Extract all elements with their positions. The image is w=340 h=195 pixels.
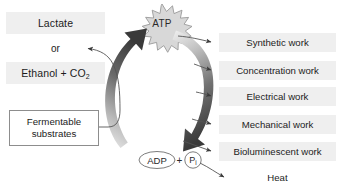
thick-arrow-synthesis <box>105 29 147 149</box>
plus-sign: + <box>175 153 184 167</box>
atp-label: ATP <box>143 16 181 30</box>
output-mechanical-work: Mechanical work <box>219 115 336 134</box>
lactate-box: Lactate <box>6 12 105 34</box>
atp-cycle-diagram: Lactate or Ethanol + CO2 Fermentable sub… <box>0 0 340 195</box>
lactate-label: Lactate <box>38 17 73 29</box>
fermentable-line1: Fermentable <box>27 116 81 128</box>
output-heat: Heat <box>219 168 336 187</box>
output-electrical-work: Electrical work <box>219 87 336 106</box>
or-text: or <box>51 43 60 54</box>
or-label: or <box>6 40 105 56</box>
ethanol-label: Ethanol + CO2 <box>21 67 90 79</box>
ethanol-co2-box: Ethanol + CO2 <box>6 62 105 84</box>
output-bioluminescent-work: Bioluminescent work <box>219 142 336 161</box>
fermentable-line2: substrates <box>32 128 77 140</box>
adp-label: ADP <box>140 153 174 167</box>
fermentable-substrates-box: Fermentable substrates <box>9 110 99 146</box>
pi-label: Pi <box>185 153 201 167</box>
output-concentration-work: Concentration work <box>219 61 336 80</box>
thick-arrow-hydrolysis <box>173 31 214 152</box>
output-synthetic-work: Synthetic work <box>219 33 336 52</box>
ethanol-subscript: 2 <box>86 73 90 80</box>
pi-subscript: i <box>195 159 196 166</box>
